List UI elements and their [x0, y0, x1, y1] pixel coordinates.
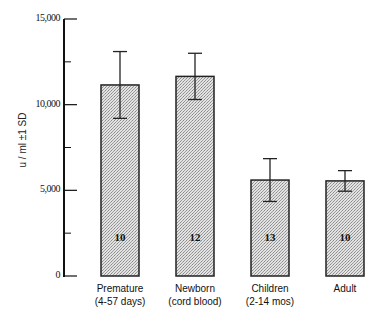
category-label: Children(2-14 mos)	[230, 282, 310, 308]
category-detail: (4-57 days)	[80, 295, 160, 308]
y-tick-label: 0	[20, 269, 60, 280]
category-detail: (cord blood)	[155, 295, 235, 308]
sample-size-label: 10	[100, 231, 140, 243]
category-name: Children	[230, 282, 310, 295]
category-name: Premature	[80, 282, 160, 295]
category-label: Adult	[305, 282, 377, 295]
category-name: Adult	[305, 282, 377, 295]
category-detail: (2-14 mos)	[230, 295, 310, 308]
bar	[326, 181, 364, 276]
y-tick-label: 5,000	[20, 183, 60, 194]
sample-size-label: 13	[250, 231, 290, 243]
category-label: Premature(4-57 days)	[80, 282, 160, 308]
sample-size-label: 12	[175, 231, 215, 243]
y-axis	[64, 19, 77, 277]
category-name: Newborn	[155, 282, 235, 295]
category-label: Newborn(cord blood)	[155, 282, 235, 308]
sample-size-label: 10	[325, 231, 365, 243]
y-axis-label: u / ml ±1 SD	[17, 113, 28, 168]
y-tick-label: 10,000	[20, 98, 60, 109]
y-tick-label: 15,000	[20, 12, 60, 23]
bar	[176, 76, 214, 276]
